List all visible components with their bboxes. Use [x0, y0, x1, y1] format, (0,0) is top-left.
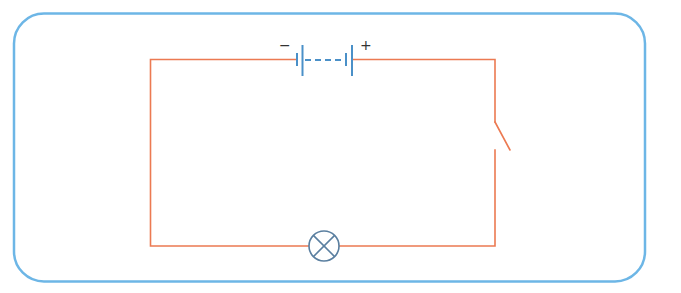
wire-top-left [151, 60, 310, 247]
battery [297, 45, 352, 76]
wire-bottom-right [339, 150, 495, 246]
battery-negative-label: − [279, 37, 291, 53]
battery-positive-label: + [360, 37, 372, 53]
switch-blade [495, 122, 510, 150]
circuit-wires [151, 60, 496, 247]
wire-top-right [352, 60, 495, 123]
circuit-diagram: − + [0, 0, 681, 293]
lamp-icon [309, 231, 339, 261]
